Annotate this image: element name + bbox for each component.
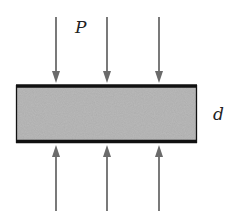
arrow-head: [155, 71, 163, 83]
pressure-arrow-up: [155, 145, 163, 211]
arrow-head: [103, 71, 111, 83]
pressure-arrow-down: [52, 17, 60, 83]
slab: [16, 85, 197, 143]
pressure-arrow-up: [103, 145, 111, 211]
pressure-slab-diagram: P d: [0, 0, 235, 213]
pressure-arrow-down: [103, 17, 111, 83]
arrow-head: [103, 145, 111, 157]
arrow-head: [52, 145, 60, 157]
top-pressure-arrows: [52, 17, 163, 83]
thickness-label: d: [213, 104, 224, 124]
bottom-pressure-arrows: [52, 145, 163, 211]
arrow-head: [155, 145, 163, 157]
slab-fill: [16, 85, 197, 142]
pressure-arrow-up: [52, 145, 60, 211]
arrow-head: [52, 71, 60, 83]
pressure-label: P: [74, 17, 87, 37]
pressure-arrow-down: [155, 17, 163, 83]
